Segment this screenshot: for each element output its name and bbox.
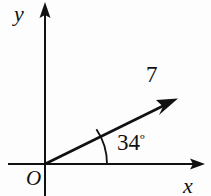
x-axis-label: x xyxy=(183,175,193,196)
vector-magnitude-label: 7 xyxy=(146,63,158,86)
degree-symbol-icon: º xyxy=(140,132,145,148)
origin-label: O xyxy=(26,168,41,189)
vector-angle-diagram: y x O 7 34º xyxy=(0,0,211,196)
angle-value: 34 xyxy=(117,130,140,155)
angle-label: 34º xyxy=(117,131,145,154)
y-axis-label: y xyxy=(14,3,24,25)
